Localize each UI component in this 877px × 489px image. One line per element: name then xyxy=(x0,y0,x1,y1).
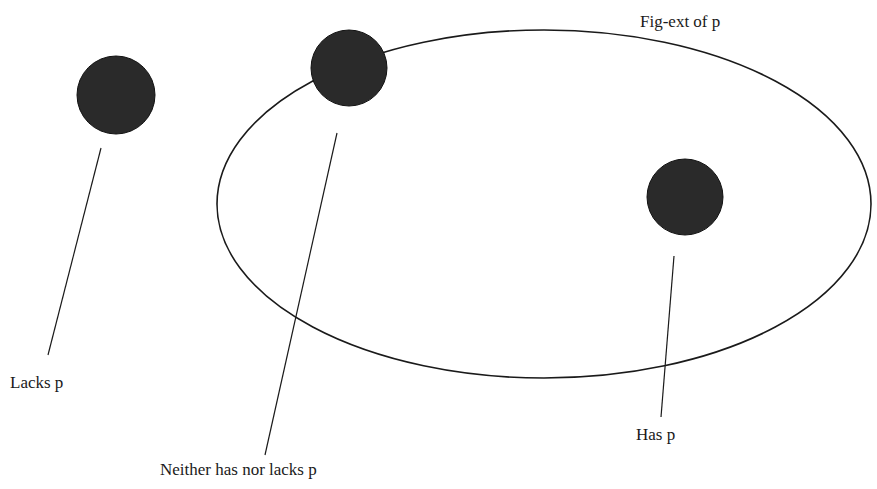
object-has: Has p xyxy=(636,159,723,444)
neither-leader-line xyxy=(265,133,337,455)
has-dot xyxy=(647,159,723,235)
lacks-label: Lacks p xyxy=(10,373,63,392)
has-label: Has p xyxy=(636,425,675,444)
fig-ext-label: Fig-ext of p xyxy=(640,12,720,31)
lacks-leader-line xyxy=(48,148,101,355)
lacks-dot xyxy=(77,56,155,134)
neither-label: Neither has nor lacks p xyxy=(160,460,317,479)
object-lacks: Lacks p xyxy=(10,56,155,392)
neither-dot xyxy=(311,30,387,106)
diagram-canvas: Fig-ext of p Lacks p Neither has nor lac… xyxy=(0,0,877,489)
has-leader-line xyxy=(661,256,674,417)
object-neither: Neither has nor lacks p xyxy=(160,30,387,479)
